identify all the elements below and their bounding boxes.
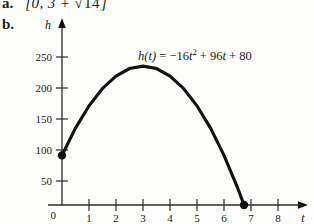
y-tick-label-250: 250 (36, 51, 53, 63)
equation-term2-var: t (222, 49, 225, 63)
figure-page: a. [0, 3 + √14] b. (0, 0, 314, 224)
x-tick-label-8: 8 (275, 212, 281, 224)
y-tick-label-200: 200 (36, 82, 53, 94)
x-tick-labels: 1 2 3 4 5 6 7 8 (86, 212, 281, 224)
parabola-curve (62, 66, 244, 205)
y-tick-label-100: 100 (36, 144, 53, 156)
x-tick-label-2: 2 (113, 212, 119, 224)
curve-start-point (58, 151, 66, 159)
x-axis-label: t (301, 211, 305, 224)
curve-end-point (240, 201, 248, 209)
equation-annotation: h(t) = −16t2 + 96t + 80 (138, 47, 252, 64)
y-tick-label-150: 150 (36, 113, 53, 125)
y-axis-label: h (45, 18, 51, 32)
y-tick-labels: 250 200 150 100 50 (36, 51, 53, 187)
x-tick-label-7: 7 (248, 212, 254, 224)
graph-svg: 250 200 150 100 50 0 1 (0, 0, 314, 224)
y-tick-label-50: 50 (41, 175, 53, 187)
y-axis-arrow-icon (58, 18, 66, 28)
origin-label: 0 (51, 209, 57, 221)
equation-op1: + (200, 49, 207, 63)
x-tick-label-5: 5 (194, 212, 200, 224)
equation-term1-exponent: 2 (192, 47, 196, 57)
x-tick-label-6: 6 (221, 212, 227, 224)
x-tick-label-3: 3 (140, 212, 146, 224)
equation-term2-coef: 96 (210, 49, 223, 63)
equation-term3: 80 (239, 49, 252, 63)
equation-equals: = (159, 49, 166, 63)
x-axis (48, 201, 308, 209)
equation-op2: + (229, 49, 236, 63)
equation-term1-coef: −16 (169, 49, 189, 63)
equation-lhs: h(t) (138, 49, 156, 63)
x-axis-arrow-icon (298, 201, 308, 209)
parabola-graph: 250 200 150 100 50 0 1 (0, 0, 314, 224)
x-tick-label-1: 1 (86, 212, 92, 224)
y-axis (58, 18, 66, 205)
x-tick-label-4: 4 (167, 212, 173, 224)
